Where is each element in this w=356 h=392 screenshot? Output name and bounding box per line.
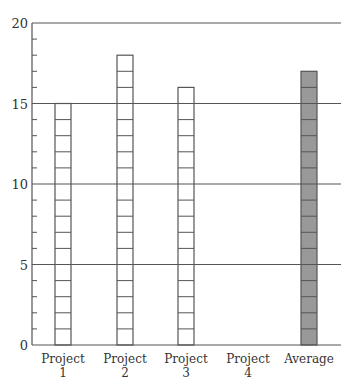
y-tick-label: 5 (20, 258, 28, 273)
bar-chart: 05101520 Project1Project2Project3Project… (0, 0, 356, 392)
bar-body (301, 71, 317, 345)
x-category-label: 2 (121, 366, 129, 380)
x-category-label: 1 (59, 366, 67, 380)
x-category-label: Project (226, 352, 270, 366)
bar-project-3 (178, 87, 194, 345)
y-tick-label: 15 (11, 97, 28, 112)
bar-average (301, 71, 317, 345)
x-category-label: 4 (244, 366, 252, 380)
x-category-label: Project (41, 352, 85, 366)
x-category-label: Average (283, 352, 334, 366)
y-tick-label: 0 (20, 338, 28, 353)
bar-body (55, 104, 71, 346)
y-tick-label: 10 (11, 177, 28, 192)
x-category-label: Project (103, 352, 147, 366)
x-category-label: Project (164, 352, 208, 366)
y-tick-label: 20 (11, 16, 28, 31)
bar-project-1 (55, 104, 71, 346)
x-axis-labels: Project1Project2Project3Project4Average (41, 352, 334, 380)
bar-project-2 (117, 55, 133, 345)
bars (55, 55, 317, 345)
x-category-label: 3 (182, 366, 190, 380)
